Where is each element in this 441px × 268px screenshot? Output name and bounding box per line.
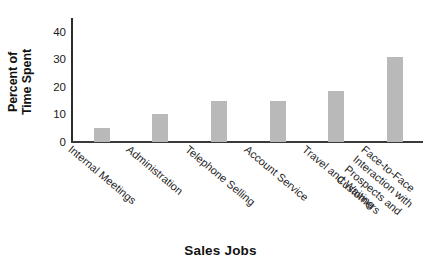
y-axis-tick-label: 0 — [60, 136, 66, 148]
bar-chart-figure: Percent of Time Spent 010203040 Internal… — [0, 0, 441, 268]
y-axis-title-line-1: Percent of — [6, 52, 20, 112]
plot-area: 010203040 — [71, 18, 423, 142]
x-axis-category-labels: Internal MeetingsAdministrationTelephone… — [71, 143, 441, 238]
bar — [328, 91, 344, 142]
y-axis-line — [71, 18, 73, 142]
y-axis-tick-label: 40 — [53, 26, 66, 38]
y-axis-title-line-2: Time Spent — [19, 49, 33, 115]
y-axis-tick-label: 10 — [53, 108, 66, 120]
bar — [387, 57, 403, 142]
y-axis-tick-label: 20 — [53, 81, 66, 93]
bar — [94, 128, 110, 142]
y-axis-title: Percent of Time Spent — [0, 26, 40, 138]
x-axis-category-label-line: Administration — [124, 143, 186, 198]
bar — [211, 101, 227, 142]
x-axis-category-label: Administration — [124, 143, 186, 198]
y-axis-title-text: Percent of Time Spent — [7, 49, 34, 115]
x-axis-category-label: Face-to-FaceInteraction withProspects an… — [333, 143, 423, 230]
bar — [270, 101, 286, 142]
y-axis-tick-label: 30 — [53, 53, 66, 65]
x-axis-title: Sales Jobs — [0, 243, 441, 258]
bar — [152, 114, 168, 142]
